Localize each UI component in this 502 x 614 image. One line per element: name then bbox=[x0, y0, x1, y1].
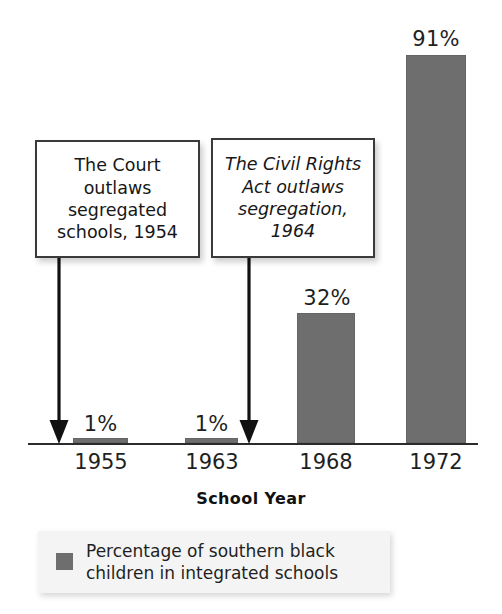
bar-1968 bbox=[297, 313, 355, 443]
bar-value-1972: 91% bbox=[402, 29, 470, 50]
bar-chart: 1% 1% 32% 91% The Court outlaws segregat… bbox=[0, 0, 502, 614]
annotation-box-civil-rights-act-text: The Civil Rights Act outlaws segregation… bbox=[225, 153, 361, 243]
bar-value-1963: 1% bbox=[179, 414, 244, 435]
annotation-box-brown-v-board-text: The Court outlaws segregated schools, 19… bbox=[57, 154, 178, 244]
x-tick-label-1955: 1955 bbox=[66, 452, 136, 473]
x-tick-label-1972: 1972 bbox=[401, 452, 471, 473]
x-axis-title: School Year bbox=[0, 489, 502, 508]
bar-value-1968: 32% bbox=[293, 288, 361, 309]
x-tick-label-1963: 1963 bbox=[177, 452, 247, 473]
plot-area: 1% 1% 32% 91% The Court outlaws segregat… bbox=[0, 0, 502, 450]
legend-label: Percentage of southern black children in… bbox=[86, 540, 338, 585]
annotation-box-brown-v-board: The Court outlaws segregated schools, 19… bbox=[35, 140, 200, 258]
chart-legend: Percentage of southern black children in… bbox=[38, 531, 390, 593]
annotation-box-civil-rights-act: The Civil Rights Act outlaws segregation… bbox=[211, 138, 375, 258]
x-tick-label-1968: 1968 bbox=[291, 452, 361, 473]
bar-value-1955: 1% bbox=[68, 414, 133, 435]
legend-swatch-icon bbox=[56, 553, 73, 570]
bar-1972 bbox=[406, 55, 466, 443]
x-axis-line bbox=[28, 443, 478, 445]
